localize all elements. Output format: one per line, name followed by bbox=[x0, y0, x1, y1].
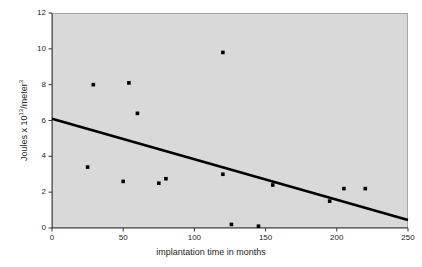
x-tick-label-50: 50 bbox=[119, 234, 128, 242]
plot-area bbox=[52, 13, 408, 228]
y-axis-title-exponent-1: 13 bbox=[18, 109, 24, 116]
y-axis-title: Joules x 1013/meter3 bbox=[20, 13, 34, 228]
y-tick-label-6: 6 bbox=[42, 117, 46, 125]
x-tick-marks bbox=[52, 228, 408, 232]
y-axis-title-exponent-2: 3 bbox=[18, 80, 24, 83]
y-tick-label-8: 8 bbox=[42, 81, 46, 89]
x-tick-label-100: 100 bbox=[188, 234, 201, 242]
scatter-chart-figure: 050100150200250 024681012 Joules x 1013/… bbox=[0, 0, 422, 267]
y-tick-label-10: 10 bbox=[37, 45, 46, 53]
y-tick-label-12: 12 bbox=[37, 9, 46, 17]
x-tick-label-0: 0 bbox=[50, 234, 54, 242]
x-axis-title: implantation time in months bbox=[0, 248, 422, 257]
y-tick-label-2: 2 bbox=[42, 188, 46, 196]
y-tick-label-4: 4 bbox=[42, 152, 46, 160]
x-tick-label-250: 250 bbox=[401, 234, 414, 242]
x-tick-label-200: 200 bbox=[330, 234, 343, 242]
x-tick-label-150: 150 bbox=[259, 234, 272, 242]
y-tick-label-0: 0 bbox=[42, 224, 46, 232]
y-axis-title-prefix: Joules x 10 bbox=[19, 116, 29, 162]
y-axis-title-middle: /meter bbox=[19, 83, 29, 109]
